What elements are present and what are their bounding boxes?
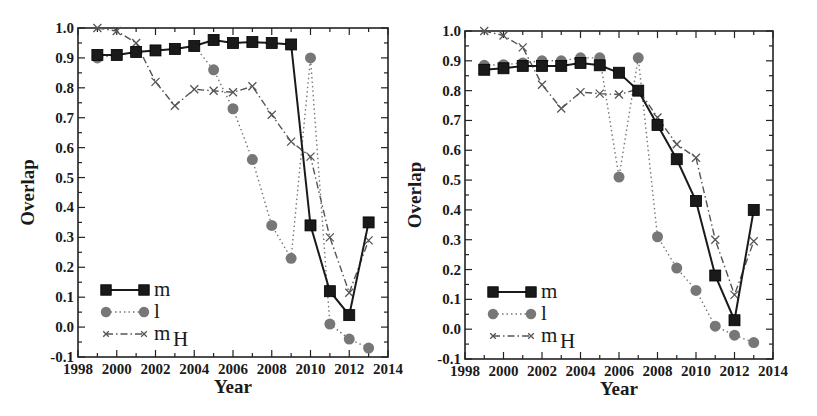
y-tick-label: 0.9: [55, 50, 74, 66]
legend-label: l: [541, 301, 547, 325]
square-marker: [305, 220, 316, 231]
circle-marker: [652, 231, 663, 242]
x-marker: [731, 291, 739, 299]
x-tick-label: 2006: [218, 361, 249, 377]
circle-marker: [286, 253, 297, 264]
x-marker: [132, 39, 140, 47]
x-tick-label: 2008: [643, 363, 673, 379]
square-marker: [150, 45, 161, 56]
x-tick-label: 2008: [257, 361, 287, 377]
circle-marker: [344, 334, 355, 345]
circle-marker: [710, 321, 721, 332]
y-tick-label: 0.3: [55, 229, 74, 245]
y-tick-label: 0.0: [55, 319, 74, 335]
square-marker: [556, 60, 567, 71]
square-marker: [228, 37, 239, 48]
circle-marker: [748, 337, 759, 348]
y-tick-label: 0.7: [55, 110, 74, 126]
square-marker: [363, 217, 374, 228]
y-tick-label: 0.8: [55, 80, 74, 96]
x-tick-label: 2000: [102, 361, 132, 377]
y-tick-label: 0.3: [442, 232, 461, 248]
legend: mlmH: [101, 277, 188, 351]
y-tick-label: 0.1: [55, 289, 74, 305]
x-tick-label: 2014: [373, 361, 404, 377]
square-marker: [729, 315, 740, 326]
circle-marker: [139, 307, 149, 317]
x-tick-label: 2000: [489, 363, 519, 379]
y-tick-label: 0.5: [55, 170, 74, 186]
square-marker: [671, 154, 682, 165]
y-axis-title: Overlap: [17, 159, 38, 226]
y-tick-label: 0.4: [55, 199, 74, 215]
square-marker: [131, 46, 142, 57]
square-marker: [517, 60, 528, 71]
x-tick-label: 2010: [681, 363, 711, 379]
y-axis-title: Overlap: [404, 162, 425, 229]
series-line: [484, 63, 754, 320]
legend-label: l: [154, 299, 160, 323]
circle-marker: [488, 309, 498, 319]
x-tick-label: 2012: [334, 361, 364, 377]
series-l: [92, 40, 374, 353]
x-marker: [528, 333, 534, 339]
y-tick-label: 0.5: [442, 172, 461, 188]
y-tick-label: -0.1: [50, 349, 74, 365]
x-tick-label: 2012: [720, 363, 750, 379]
legend: mlmH: [488, 279, 575, 353]
circle-marker: [671, 263, 682, 274]
y-tick-label: 0.0: [442, 321, 461, 337]
square-marker: [526, 287, 536, 297]
x-marker: [519, 43, 527, 51]
series-line: [97, 40, 368, 315]
square-marker: [479, 64, 490, 75]
square-marker: [101, 285, 111, 295]
square-marker: [189, 40, 200, 51]
square-marker: [710, 270, 721, 281]
x-tick-label: 2002: [527, 363, 557, 379]
y-tick-label: 0.9: [442, 53, 461, 69]
square-marker: [488, 287, 498, 297]
circle-marker: [101, 307, 111, 317]
circle-marker: [247, 154, 258, 165]
square-marker: [169, 43, 180, 54]
x-marker: [577, 88, 585, 96]
y-tick-label: 0.4: [442, 202, 461, 218]
square-marker: [139, 285, 149, 295]
x-marker: [268, 111, 276, 119]
circle-marker: [305, 52, 316, 63]
x-marker: [171, 102, 179, 110]
left-chart: 199820002002200420062008201020122014-0.1…: [17, 20, 404, 397]
x-tick-label: 2004: [179, 361, 210, 377]
y-tick-label: 0.1: [442, 291, 461, 307]
square-marker: [537, 60, 548, 71]
series-line: [484, 58, 754, 343]
right-chart: 199820002002200420062008201020122014-0.1…: [404, 23, 789, 399]
y-tick-label: 0.6: [55, 140, 74, 156]
x-marker: [345, 289, 353, 297]
circle-marker: [691, 285, 702, 296]
circle-marker: [228, 103, 239, 114]
x-marker: [557, 105, 565, 113]
x-marker: [152, 78, 160, 86]
y-tick-label: 0.2: [55, 259, 74, 275]
y-tick-label: 1.0: [442, 23, 461, 39]
legend-subscript: H: [173, 327, 188, 351]
square-marker: [691, 195, 702, 206]
x-marker: [190, 85, 198, 93]
series-line: [97, 28, 368, 293]
square-marker: [498, 63, 509, 74]
x-axis-title: Year: [214, 376, 253, 397]
square-marker: [594, 60, 605, 71]
square-marker: [92, 49, 103, 60]
y-tick-label: 0.7: [442, 112, 461, 128]
x-marker: [141, 331, 147, 337]
legend-label: m: [541, 323, 557, 347]
legend-label: m: [154, 321, 170, 345]
square-marker: [614, 67, 625, 78]
x-marker: [673, 140, 681, 148]
x-tick-label: 2004: [566, 363, 597, 379]
square-marker: [286, 39, 297, 50]
circle-marker: [266, 220, 277, 231]
circle-marker: [208, 64, 219, 75]
